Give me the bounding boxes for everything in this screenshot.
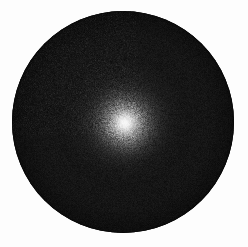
dark-circular-disk [12,11,234,233]
disk-body [12,11,234,233]
image-viewport [0,0,248,247]
